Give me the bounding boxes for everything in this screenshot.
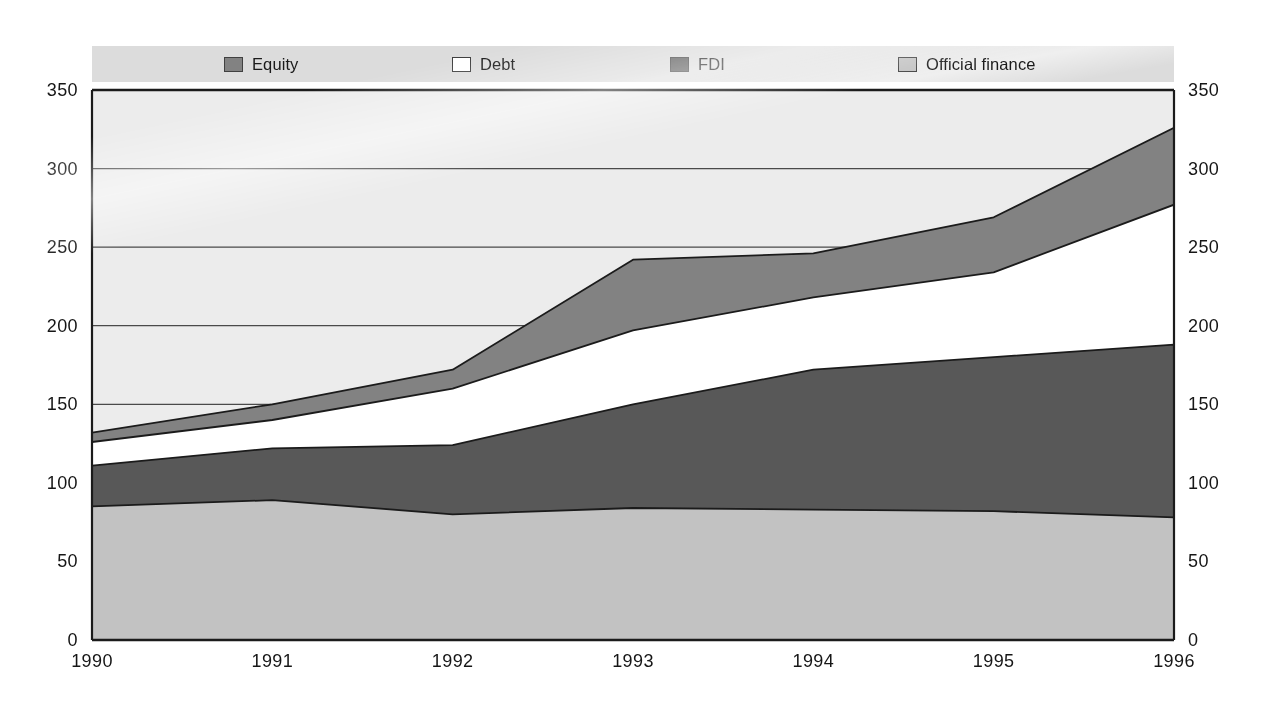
x-tick-1992: 1992 (432, 652, 474, 670)
x-tick-1993: 1993 (612, 652, 654, 670)
x-tick-1991: 1991 (252, 652, 294, 670)
area-official-finance (92, 500, 1174, 640)
x-tick-1995: 1995 (973, 652, 1015, 670)
y-tick-left-50: 50 (57, 552, 78, 570)
y-tick-left-150: 150 (47, 395, 78, 413)
y-tick-left-350: 350 (47, 81, 78, 99)
y-tick-left-0: 0 (68, 631, 78, 649)
stacked-area-chart: Equity Debt FDI Official finance (0, 0, 1262, 707)
y-tick-right-350: 350 (1188, 81, 1219, 99)
x-tick-1990: 1990 (71, 652, 113, 670)
y-tick-right-300: 300 (1188, 160, 1219, 178)
y-tick-right-150: 150 (1188, 395, 1219, 413)
y-tick-left-100: 100 (47, 474, 78, 492)
y-tick-left-250: 250 (47, 238, 78, 256)
plot-area (0, 0, 1262, 707)
y-tick-right-250: 250 (1188, 238, 1219, 256)
y-tick-left-300: 300 (47, 160, 78, 178)
y-tick-right-100: 100 (1188, 474, 1219, 492)
x-tick-1994: 1994 (793, 652, 835, 670)
y-tick-right-50: 50 (1188, 552, 1209, 570)
y-tick-right-200: 200 (1188, 317, 1219, 335)
y-tick-left-200: 200 (47, 317, 78, 335)
y-tick-right-0: 0 (1188, 631, 1198, 649)
x-tick-1996: 1996 (1153, 652, 1195, 670)
